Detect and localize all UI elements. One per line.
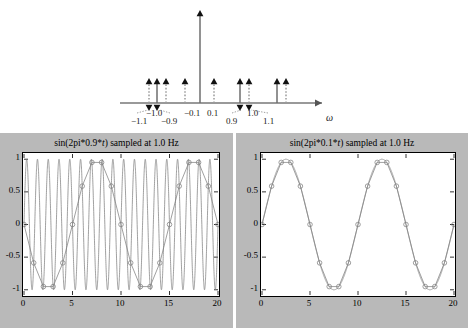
- plot-canvas-left: [23, 153, 219, 296]
- spectrum-diagram: −1.1−1.0−0.9−0.10.10.91.01.1 ω: [0, 0, 468, 131]
- impulse-solid-up: [274, 78, 281, 103]
- spectrum-tick-label: 0.1: [207, 108, 218, 118]
- impulse-dotted-up: [211, 78, 218, 103]
- axes-left: [22, 152, 220, 297]
- y-tick-label: -1: [0, 283, 20, 293]
- figure-page: −1.1−1.0−0.9−0.10.10.91.01.1 ω sin(2pi*0…: [0, 0, 468, 328]
- impulse-solid-up: [197, 10, 204, 103]
- omega-axis-label: ω: [326, 112, 333, 123]
- plot-title-left-pre: sin(2pi*0.9*: [54, 138, 102, 148]
- impulse-solid-up: [154, 78, 161, 103]
- impulse-dotted-up: [163, 78, 170, 103]
- spectrum-tick-label: −0.9: [161, 116, 177, 126]
- plot-canvas-right: [261, 153, 455, 296]
- spectrum-tick-label: −1.1: [131, 116, 147, 126]
- x-tick-label: 20: [442, 298, 464, 308]
- x-tick-label: 10: [346, 298, 368, 308]
- y-tick-label: -0.5: [0, 250, 20, 260]
- x-tick-label: 5: [61, 298, 83, 308]
- impulse-solid-up: [237, 78, 244, 103]
- spectrum-tick-label: 1.1: [263, 116, 274, 126]
- y-tick-label: -1: [238, 283, 258, 293]
- plot-title-right-pre: sin(2pi*0.1*: [290, 138, 338, 148]
- spectrum-tick-label: 0.9: [226, 116, 237, 126]
- y-tick-label: 1: [0, 152, 20, 162]
- sampled-envelope-line: [24, 162, 218, 286]
- y-tick-label: 0: [0, 218, 20, 228]
- x-tick-label: 15: [394, 298, 416, 308]
- x-tick-label: 0: [250, 298, 272, 308]
- x-tick-label: 20: [206, 298, 228, 308]
- y-tick-label: 0: [238, 218, 258, 228]
- y-tick-label: 0.5: [0, 185, 20, 195]
- plot-title-right-post: ) sampled at 1.0 Hz: [340, 138, 414, 148]
- plot-panel-left: sin(2pi*0.9*t) sampled at 1.0 Hz 10.50-0…: [0, 133, 233, 328]
- y-tick-label: -0.5: [238, 250, 258, 260]
- impulse-dotted-up: [182, 78, 189, 103]
- y-tick-label: 1: [238, 152, 258, 162]
- spectrum-tick-label: 1.0: [247, 108, 258, 118]
- impulse-dotted-up: [246, 78, 253, 103]
- label-leader-line: [232, 110, 241, 113]
- plot-panel-right: sin(2pi*0.1*t) sampled at 1.0 Hz 10.50-0…: [236, 133, 468, 328]
- axes-right: [260, 152, 456, 297]
- sampled-envelope-line: [262, 162, 454, 286]
- spectrum-svg: [0, 0, 468, 131]
- impulse-dotted-up: [283, 78, 290, 103]
- x-tick-label: 10: [109, 298, 131, 308]
- x-tick-label: 5: [298, 298, 320, 308]
- plot-title-left-post: ) sampled at 1.0 Hz: [105, 138, 179, 148]
- impulse-dotted-up: [146, 78, 153, 103]
- x-tick-label: 15: [158, 298, 180, 308]
- plot-title-right: sin(2pi*0.1*t) sampled at 1.0 Hz: [236, 138, 468, 148]
- y-tick-label: 0.5: [238, 185, 258, 195]
- spectrum-tick-label: −0.1: [184, 108, 200, 118]
- axis-arrowhead: [315, 99, 322, 106]
- plot-title-left: sin(2pi*0.9*t) sampled at 1.0 Hz: [0, 138, 233, 148]
- spectrum-tick-label: −1.0: [146, 108, 162, 118]
- x-tick-label: 0: [12, 298, 34, 308]
